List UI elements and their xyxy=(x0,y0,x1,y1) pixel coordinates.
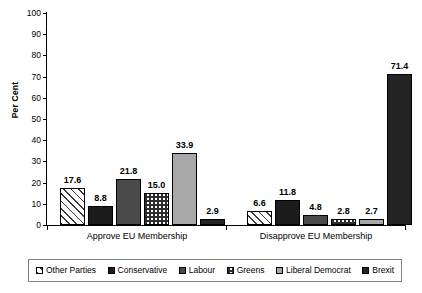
bar-other-parties-2 xyxy=(247,211,272,225)
y-axis-tick-label: 90 xyxy=(0,30,47,39)
bar-chart: Per Cent 0102030405060708090100 17.68.82… xyxy=(0,0,422,293)
y-axis-tick-mark xyxy=(43,34,47,35)
y-axis-tick-label: 10 xyxy=(0,200,47,209)
bar-brexit-2 xyxy=(387,74,412,225)
legend-item-label: Greens xyxy=(237,266,265,275)
legend-swatch-icon xyxy=(36,267,43,274)
legend-item-conservative[interactable]: Conservative xyxy=(108,266,168,275)
y-axis-tick-mark xyxy=(43,161,47,162)
bar-liberal-democrat-2 xyxy=(359,219,384,225)
chart-legend: Other PartiesConservativeLabourGreensLib… xyxy=(28,259,402,282)
legend-swatch-icon xyxy=(276,267,283,274)
bar-other-parties-1 xyxy=(60,188,85,225)
y-axis-tick-mark xyxy=(43,183,47,184)
bar-value-label: 2.9 xyxy=(206,206,219,216)
y-axis-tick-label: 70 xyxy=(0,72,47,81)
bar-value-label: 6.6 xyxy=(253,198,266,208)
legend-item-label: Conservative xyxy=(118,266,168,275)
legend-item-label: Labour xyxy=(189,266,215,275)
legend-item-label: Brexit xyxy=(372,266,394,275)
y-axis-tick-mark xyxy=(43,140,47,141)
y-axis-tick-label: 60 xyxy=(0,94,47,103)
bar-value-label: 4.8 xyxy=(309,202,322,212)
legend-item-brexit[interactable]: Brexit xyxy=(362,266,394,275)
bar-liberal-democrat-1 xyxy=(172,153,197,225)
y-axis-tick-mark xyxy=(43,204,47,205)
legend-item-greens[interactable]: Greens xyxy=(227,266,265,275)
y-axis-tick-label: 50 xyxy=(0,115,47,124)
plot-area: 0102030405060708090100 17.68.821.815.033… xyxy=(47,13,405,225)
x-axis-tick-mark xyxy=(226,225,227,230)
bar-labour-1 xyxy=(116,179,141,225)
bar-brexit-1 xyxy=(200,219,225,225)
bar-conservative-1 xyxy=(88,206,113,225)
x-axis-group-label-1: Approve EU Membership xyxy=(87,231,188,241)
y-axis-tick-label: 80 xyxy=(0,51,47,60)
y-axis-tick-label: 20 xyxy=(0,178,47,187)
y-axis-tick-label: 30 xyxy=(0,157,47,166)
legend-swatch-icon xyxy=(108,267,115,274)
legend-item-liberal-democrat[interactable]: Liberal Democrat xyxy=(276,266,351,275)
x-axis-tick-mark xyxy=(47,225,48,230)
y-axis-tick-label: 0 xyxy=(0,221,47,230)
x-axis-tick-mark xyxy=(405,225,406,230)
bar-value-label: 21.8 xyxy=(120,166,138,176)
y-axis-tick-mark xyxy=(43,119,47,120)
bar-greens-1 xyxy=(144,193,169,225)
bar-labour-2 xyxy=(303,215,328,225)
legend-swatch-icon xyxy=(227,267,234,274)
legend-item-label: Liberal Democrat xyxy=(286,266,351,275)
bar-greens-2 xyxy=(331,219,356,225)
bar-conservative-2 xyxy=(275,200,300,225)
y-axis-tick-label: 40 xyxy=(0,136,47,145)
legend-item-other-parties[interactable]: Other Parties xyxy=(36,266,96,275)
legend-swatch-icon xyxy=(362,267,369,274)
y-axis-tick-mark xyxy=(43,13,47,14)
bar-value-label: 11.8 xyxy=(279,187,296,197)
legend-item-label: Other Parties xyxy=(46,266,96,275)
bar-value-label: 8.8 xyxy=(94,193,107,203)
y-axis-tick-mark xyxy=(43,55,47,56)
legend-item-labour[interactable]: Labour xyxy=(179,266,215,275)
y-axis-tick-label: 100 xyxy=(0,9,47,18)
bar-value-label: 71.4 xyxy=(391,61,409,71)
y-axis-tick-mark xyxy=(43,98,47,99)
bar-value-label: 2.7 xyxy=(365,206,378,216)
legend-swatch-icon xyxy=(179,267,186,274)
bar-value-label: 2.8 xyxy=(337,206,350,216)
x-axis-group-label-2: Disapprove EU Membership xyxy=(260,231,373,241)
bar-value-label: 15.0 xyxy=(148,180,166,190)
bar-value-label: 33.9 xyxy=(176,140,194,150)
bar-value-label: 17.6 xyxy=(64,175,82,185)
y-axis-tick-mark xyxy=(43,77,47,78)
